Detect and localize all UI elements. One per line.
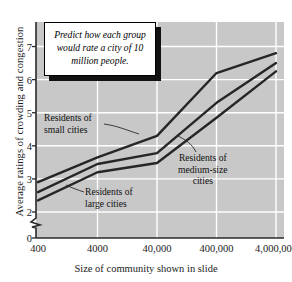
series-label-medium-size-cities: Residents of medium-size cities [178,152,228,187]
x-tick-label: 400 [30,243,46,254]
x-tick-label: 4000 [87,243,108,254]
series-label-small-cities: Residents of small cities [44,112,92,135]
callout-box: Predict how each group would rate a city… [44,22,156,76]
chart-figure: Average ratings of crowding and congesti… [0,0,292,282]
x-tick-label: 400,000 [199,243,233,254]
x-tick-label: 4,000,000 [255,243,292,254]
series-label-large-cities: Residents of large cities [85,186,133,209]
x-tick-label: 40,000 [143,243,172,254]
